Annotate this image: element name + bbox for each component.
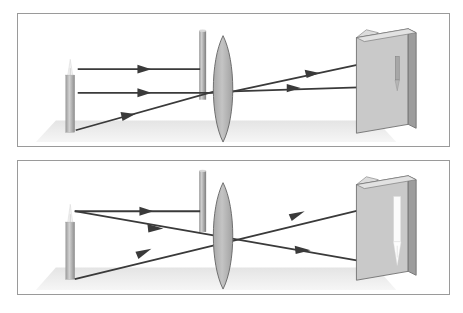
ground-plane: [36, 120, 396, 142]
candle-object: [66, 59, 75, 132]
aperture-barrier: [199, 170, 206, 232]
projection-screen: [356, 29, 416, 133]
figure-stage: [0, 0, 463, 313]
ray-refracted-upper-arrow: [305, 70, 320, 78]
ray-parallel-upper-arrow: [137, 65, 151, 74]
screen-face: [356, 29, 408, 133]
panel-top: [17, 13, 450, 147]
candle-object: [66, 204, 75, 279]
ray-parallel-lower-arrow: [137, 88, 151, 97]
panel-bottom: [17, 160, 450, 295]
panel-top-canvas: [18, 14, 449, 146]
ground-plane: [36, 267, 396, 290]
ray-from-base-far-arrow: [289, 211, 305, 221]
aperture-barrier: [199, 30, 206, 100]
screen-thickness: [408, 176, 416, 276]
panel-bottom-canvas: [18, 161, 449, 294]
screen-thickness: [408, 29, 416, 128]
ray-parallel-upper-arrow: [139, 207, 153, 216]
projection-screen: [356, 176, 416, 280]
ray-refracted-lower-arrow: [287, 84, 301, 92]
ray-from-base-near-arrow: [135, 249, 151, 259]
